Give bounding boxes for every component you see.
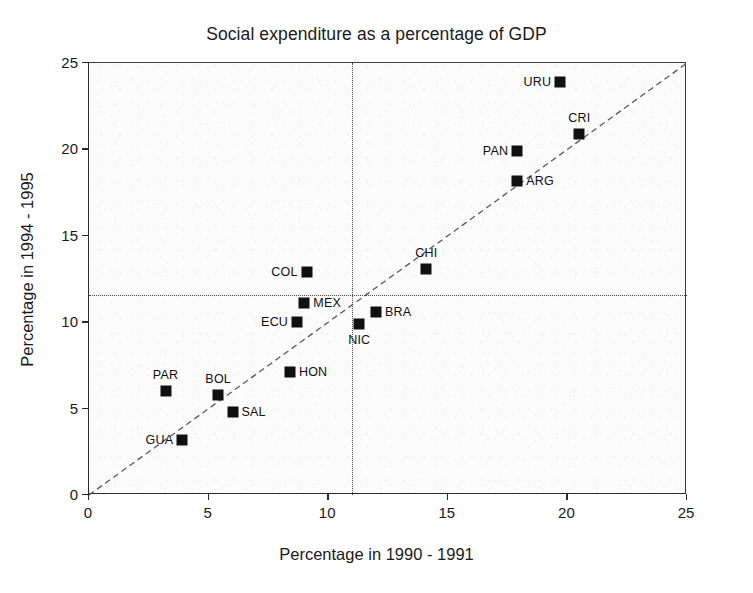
data-point-bol bbox=[213, 389, 224, 400]
y-tick-mark bbox=[82, 321, 88, 322]
x-tick-mark bbox=[327, 494, 328, 500]
y-tick-label: 5 bbox=[34, 399, 78, 416]
data-point-label-pan: PAN bbox=[483, 144, 508, 158]
x-tick-mark bbox=[88, 494, 89, 500]
y-tick-mark bbox=[82, 62, 88, 63]
x-tick-mark bbox=[566, 494, 567, 500]
x-tick-mark bbox=[686, 494, 687, 500]
y-tick-mark bbox=[82, 235, 88, 236]
data-point-label-arg: ARG bbox=[526, 174, 554, 188]
y-axis-label: Percentage in 1994 - 1995 bbox=[18, 75, 37, 465]
data-point-label-mex: MEX bbox=[313, 296, 341, 310]
chart-figure: Social expenditure as a percentage of GD… bbox=[0, 0, 753, 593]
data-point-label-chi: CHI bbox=[415, 246, 437, 260]
data-point-label-gua: GUA bbox=[146, 433, 174, 447]
data-point-col bbox=[301, 267, 312, 278]
x-tick-label: 15 bbox=[438, 504, 455, 521]
data-point-pan bbox=[512, 146, 523, 157]
data-point-sal bbox=[227, 407, 238, 418]
y-tick-label: 25 bbox=[34, 54, 78, 71]
x-tick-mark bbox=[208, 494, 209, 500]
y-tick-mark bbox=[82, 494, 88, 495]
plot-area: URUCRIPANARGCHICOLMEXECUBRANICHONPARBOLS… bbox=[88, 62, 686, 494]
data-point-label-bra: BRA bbox=[385, 305, 411, 319]
data-point-label-bol: BOL bbox=[205, 372, 231, 386]
y-tick-mark bbox=[82, 408, 88, 409]
x-tick-label: 10 bbox=[319, 504, 336, 521]
x-tick-label: 5 bbox=[203, 504, 211, 521]
data-point-gua bbox=[177, 434, 188, 445]
data-point-label-sal: SAL bbox=[242, 405, 266, 419]
data-point-label-col: COL bbox=[271, 265, 297, 279]
x-tick-mark bbox=[447, 494, 448, 500]
mean-x-reference-line bbox=[352, 63, 353, 495]
x-tick-label: 20 bbox=[558, 504, 575, 521]
data-point-cri bbox=[574, 128, 585, 139]
data-point-label-par: PAR bbox=[153, 368, 178, 382]
y-tick-label: 10 bbox=[34, 313, 78, 330]
mean-y-reference-line bbox=[89, 295, 687, 296]
data-point-bra bbox=[371, 306, 382, 317]
y-tick-mark bbox=[82, 148, 88, 149]
data-point-arg bbox=[512, 175, 523, 186]
y-tick-label: 15 bbox=[34, 226, 78, 243]
data-point-par bbox=[160, 386, 171, 397]
data-point-mex bbox=[299, 298, 310, 309]
x-tick-label: 25 bbox=[678, 504, 695, 521]
data-point-hon bbox=[284, 367, 295, 378]
data-point-label-uru: URU bbox=[524, 75, 552, 89]
data-point-label-hon: HON bbox=[299, 365, 327, 379]
data-point-ecu bbox=[292, 317, 303, 328]
data-point-uru bbox=[555, 77, 566, 88]
data-point-label-nic: NIC bbox=[348, 333, 370, 347]
y-tick-label: 0 bbox=[34, 486, 78, 503]
chart-title: Social expenditure as a percentage of GD… bbox=[0, 24, 753, 45]
x-tick-label: 0 bbox=[84, 504, 92, 521]
data-point-label-ecu: ECU bbox=[261, 315, 288, 329]
data-point-nic bbox=[354, 318, 365, 329]
data-point-chi bbox=[421, 263, 432, 274]
x-axis-label: Percentage in 1990 - 1991 bbox=[0, 545, 753, 564]
y-tick-label: 20 bbox=[34, 140, 78, 157]
identity-reference-line bbox=[89, 63, 687, 495]
data-point-label-cri: CRI bbox=[568, 111, 590, 125]
